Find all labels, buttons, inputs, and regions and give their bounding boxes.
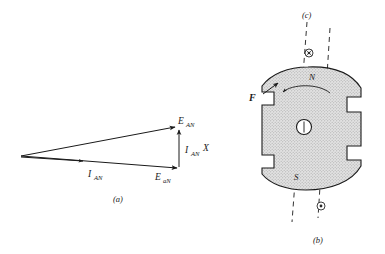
phasor-label-i-an-x-sub: AN [190, 150, 200, 157]
phasor-e-a-n-line [21, 156, 177, 168]
phasor-label-e-a-n: E aN [154, 172, 171, 184]
phasor-label-i-an: I AN [87, 169, 103, 181]
pole-label-north: N [308, 72, 316, 82]
panel-label-a: (a) [113, 194, 123, 204]
rotor-diagram-panel: F N S (c) (b) [248, 10, 361, 245]
phasor-label-e-a-n-sub: aN [163, 177, 171, 184]
circled-cross-dot-icon [305, 49, 313, 57]
phasor-label-e-an-sub: AN [185, 121, 195, 128]
panel-label-b: (b) [313, 235, 323, 245]
figure-root: E AN E aN I AN I AN X (a) [0, 0, 385, 254]
pole-label-south: S [294, 172, 299, 182]
phasor-label-i-an-sub: AN [93, 174, 103, 181]
phasor-i-an-line [21, 157, 83, 161]
figure-canvas: E AN E aN I AN I AN X (a) [0, 0, 385, 254]
phasor-label-e-an-base: E [177, 116, 184, 126]
phasor-label-e-a-n-base: E [154, 172, 161, 182]
phasor-label-i-an-x-suffix: X [202, 143, 210, 153]
phasor-label-i-an-base: I [87, 169, 92, 179]
panel-label-c: (c) [302, 10, 312, 20]
phasor-label-e-an: E AN [177, 116, 195, 128]
phasor-diagram-panel: E AN E aN I AN I AN X (a) [21, 116, 210, 204]
force-label: F [248, 92, 256, 103]
phasor-e-an-line [21, 127, 175, 156]
phasor-label-i-an-x-base: I [184, 145, 189, 155]
circled-dot-icon [317, 202, 325, 210]
phasor-label-i-an-x: I AN X [184, 143, 210, 157]
